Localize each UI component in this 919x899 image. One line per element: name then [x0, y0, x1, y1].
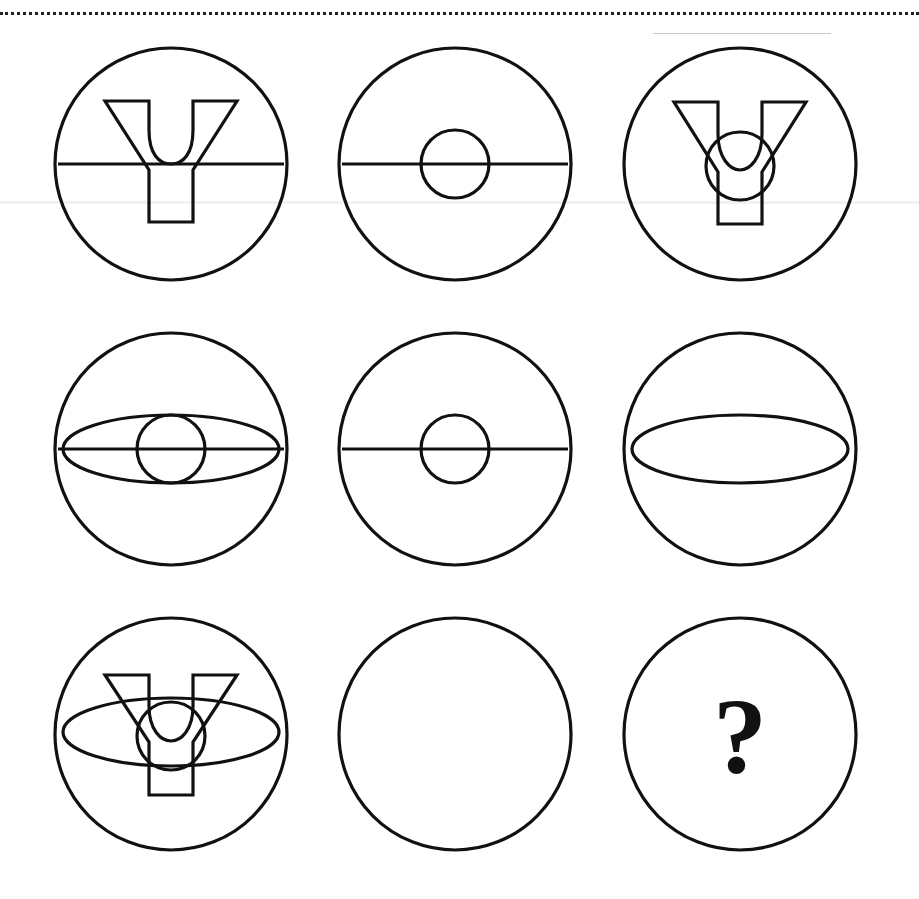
- small-circle: [706, 132, 774, 200]
- cell-r2c2: [339, 333, 571, 565]
- outer-circle: [624, 48, 856, 280]
- outer-circle: [339, 618, 571, 850]
- outer-circle: [624, 333, 856, 565]
- puzzle-grid: ?: [0, 0, 919, 899]
- cell-r1c3: [624, 48, 856, 280]
- outer-circle: [55, 618, 287, 850]
- cell-r2c1: [55, 333, 287, 565]
- y-shape: [674, 102, 806, 224]
- ellipse: [63, 698, 279, 766]
- small-circle: [137, 702, 205, 770]
- cell-r2c3: [624, 333, 856, 565]
- question-mark: ?: [713, 676, 767, 795]
- cell-r1c1: [55, 48, 287, 280]
- cell-r1c2: [339, 48, 571, 280]
- cell-r3c2: [339, 618, 571, 850]
- cell-r3c1: [55, 618, 287, 850]
- cell-r3c3: ?: [624, 618, 856, 850]
- y-shape: [105, 101, 237, 222]
- y-shape: [105, 675, 237, 795]
- ellipse: [632, 415, 848, 483]
